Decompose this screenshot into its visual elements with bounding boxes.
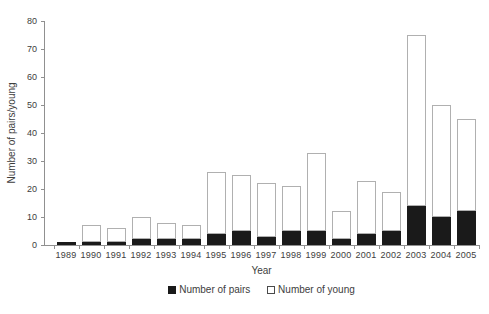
x-tick-label: 2005 — [454, 250, 479, 260]
x-tick-label: 2001 — [354, 250, 379, 260]
x-tick-mark — [454, 245, 455, 249]
x-tick-label: 1991 — [104, 250, 129, 260]
bar-young-1991 — [107, 228, 126, 242]
y-tick-mark — [41, 161, 45, 162]
y-tick-mark — [41, 77, 45, 78]
bar-pairs-2004 — [432, 217, 451, 245]
x-tick-mark — [429, 245, 430, 249]
bar-pairs-1989 — [57, 242, 76, 245]
bar-pairs-1996 — [232, 231, 251, 245]
x-tick-label: 1995 — [204, 250, 229, 260]
bar-pairs-1998 — [282, 231, 301, 245]
x-tick-mark — [104, 245, 105, 249]
x-tick-mark — [229, 245, 230, 249]
x-axis-title: Year — [44, 265, 479, 276]
y-tick-mark — [41, 245, 45, 246]
figure: Number of pairs/young 010203040506070801… — [0, 0, 489, 314]
y-tick-mark — [41, 133, 45, 134]
bar-pairs-1992 — [132, 239, 151, 245]
x-tick-label: 1999 — [304, 250, 329, 260]
x-tick-label: 1989 — [54, 250, 79, 260]
x-tick-mark — [329, 245, 330, 249]
bar-pairs-1994 — [182, 239, 201, 245]
x-tick-mark — [479, 245, 480, 249]
bar-pairs-2005 — [457, 211, 476, 245]
x-tick-label: 1990 — [79, 250, 104, 260]
bar-pairs-2000 — [332, 239, 351, 245]
bar-pairs-2002 — [382, 231, 401, 245]
x-tick-mark — [279, 245, 280, 249]
y-tick-mark — [41, 189, 45, 190]
bar-young-1995 — [207, 172, 226, 234]
y-tick-label: 30 — [5, 156, 37, 167]
y-tick-mark — [41, 105, 45, 106]
x-tick-label: 1992 — [129, 250, 154, 260]
legend-label-young: Number of young — [278, 284, 355, 295]
bar-young-2005 — [457, 119, 476, 211]
y-tick-label: 0 — [5, 240, 37, 251]
x-tick-label: 2000 — [329, 250, 354, 260]
bar-young-1992 — [132, 217, 151, 239]
bar-young-2004 — [432, 105, 451, 217]
x-tick-label: 2003 — [404, 250, 429, 260]
x-tick-mark — [354, 245, 355, 249]
x-tick-label: 2004 — [429, 250, 454, 260]
bar-pairs-1999 — [307, 231, 326, 245]
y-tick-mark — [41, 21, 45, 22]
x-tick-mark — [129, 245, 130, 249]
x-tick-mark — [79, 245, 80, 249]
x-tick-label: 1994 — [179, 250, 204, 260]
bar-pairs-2003 — [407, 206, 426, 245]
x-tick-mark — [254, 245, 255, 249]
bar-pairs-1995 — [207, 234, 226, 245]
x-tick-mark — [179, 245, 180, 249]
bar-young-2000 — [332, 211, 351, 239]
x-tick-label: 1996 — [229, 250, 254, 260]
bar-young-1994 — [182, 225, 201, 239]
y-tick-label: 10 — [5, 212, 37, 223]
x-tick-mark — [154, 245, 155, 249]
y-tick-label: 40 — [5, 128, 37, 139]
bar-pairs-2001 — [357, 234, 376, 245]
x-tick-mark — [304, 245, 305, 249]
bar-pairs-1990 — [82, 242, 101, 245]
legend: Number of pairs Number of young — [44, 284, 479, 296]
x-tick-label: 1997 — [254, 250, 279, 260]
x-tick-label: 1998 — [279, 250, 304, 260]
young-swatch-icon — [267, 286, 275, 294]
legend-label-pairs: Number of pairs — [179, 284, 250, 295]
bar-pairs-1991 — [107, 242, 126, 245]
bar-young-2002 — [382, 192, 401, 231]
y-tick-label: 20 — [5, 184, 37, 195]
y-tick-label: 80 — [5, 16, 37, 27]
bar-pairs-1997 — [257, 237, 276, 245]
bar-young-1990 — [82, 225, 101, 242]
bar-young-1996 — [232, 175, 251, 231]
pairs-swatch-icon — [168, 286, 176, 294]
x-tick-label: 1993 — [154, 250, 179, 260]
bar-pairs-1993 — [157, 239, 176, 245]
bar-young-1993 — [157, 223, 176, 240]
bar-young-1997 — [257, 183, 276, 236]
y-tick-label: 60 — [5, 72, 37, 83]
bar-young-2001 — [357, 181, 376, 234]
bar-young-1998 — [282, 186, 301, 231]
x-tick-label: 2002 — [379, 250, 404, 260]
plot-area: 0102030405060708019891990199119921993199… — [44, 21, 480, 246]
y-tick-label: 50 — [5, 100, 37, 111]
x-tick-mark — [404, 245, 405, 249]
bar-young-1999 — [307, 153, 326, 231]
legend-item-pairs: Number of pairs — [168, 284, 250, 295]
x-tick-mark — [379, 245, 380, 249]
y-tick-label: 70 — [5, 44, 37, 55]
x-tick-mark — [54, 245, 55, 249]
y-tick-mark — [41, 49, 45, 50]
bar-young-2003 — [407, 35, 426, 206]
legend-item-young: Number of young — [267, 284, 355, 295]
y-tick-mark — [41, 217, 45, 218]
x-tick-mark — [204, 245, 205, 249]
